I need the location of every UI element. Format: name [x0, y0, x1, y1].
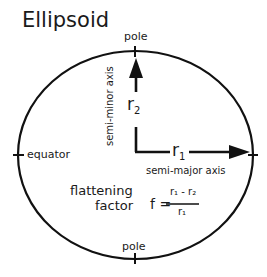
equator-label: equator — [27, 148, 70, 161]
r2-letter: r — [127, 94, 134, 114]
formula-denominator: r₁ — [178, 206, 186, 217]
r1-subscript: 1 — [179, 151, 185, 162]
flattening-label: flattening — [70, 183, 133, 198]
r2-subscript: 2 — [134, 105, 140, 116]
arrow-up-icon — [129, 58, 143, 78]
r1-letter: r — [172, 140, 179, 160]
semi-major-axis-label: semi-major axis — [146, 165, 226, 176]
r1-label: r1 — [172, 140, 185, 162]
formula-numerator: r₁ - r₂ — [170, 186, 196, 197]
arrow-right-icon — [229, 145, 250, 159]
semi-minor-axis-label: semi-minor axis — [104, 66, 115, 146]
pole-top-label: pole — [124, 30, 148, 43]
diagram-title: Ellipsoid — [22, 8, 109, 32]
pole-bottom-label: pole — [122, 240, 146, 253]
factor-label: factor — [95, 198, 133, 213]
formula-lhs: f = — [150, 196, 171, 212]
r2-label: r2 — [127, 94, 140, 116]
